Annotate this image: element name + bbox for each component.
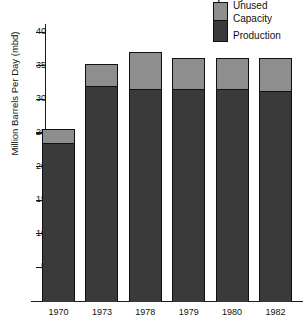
x-axis-label-1978: 1978 xyxy=(123,307,168,318)
x-axis-label-1973: 1973 xyxy=(79,307,124,318)
y-axis-title: Million Barrels Per Day (mbd) xyxy=(9,0,20,194)
bar-1980 xyxy=(216,58,249,301)
bar-1979 xyxy=(172,58,205,301)
bar-segment-unused-capacity xyxy=(173,59,204,91)
bar-1970 xyxy=(42,129,75,301)
bar-segment-production xyxy=(130,90,161,302)
bar-segment-unused-capacity xyxy=(217,59,248,91)
y-tick-label: 30 xyxy=(30,94,46,103)
bar-segment-unused-capacity xyxy=(260,59,291,92)
bar-1973 xyxy=(85,64,118,301)
bar-segment-production xyxy=(173,90,204,302)
bar-segment-production xyxy=(260,92,291,302)
y-tick-label-wrap: 35 xyxy=(14,61,46,62)
bar-segment-production xyxy=(86,87,117,302)
x-axis-label-1979: 1979 xyxy=(166,307,211,318)
bar-segment-unused-capacity xyxy=(130,53,161,91)
y-tick-label: 40 xyxy=(30,27,46,36)
y-tick-label: 35 xyxy=(30,61,46,70)
y-tick-label-wrap: 30 xyxy=(14,94,46,95)
bar-segment-unused-capacity xyxy=(86,65,117,87)
y-tick-label-wrap: 40 xyxy=(14,27,46,28)
x-axis-label-1980: 1980 xyxy=(210,307,255,318)
bar-segment-production xyxy=(43,144,74,302)
bar-segment-production xyxy=(217,90,248,302)
bar-1982 xyxy=(259,58,292,301)
legend-label-unused-capacity: Unused Capacity xyxy=(233,0,272,25)
legend-swatch-production xyxy=(213,2,228,42)
legend-label-unused-line1: Unused xyxy=(233,0,267,11)
legend-label-production: Production xyxy=(233,30,281,43)
x-axis-label-1982: 1982 xyxy=(253,307,298,318)
bar-segment-unused-capacity xyxy=(43,130,74,144)
legend-label-unused-line2: Capacity xyxy=(233,13,272,26)
legend-swatch-unused-capacity xyxy=(214,3,227,21)
x-axis-label-1970: 1970 xyxy=(36,307,81,318)
bar-chart: World Crude Oil Production and Capacity … xyxy=(0,0,305,326)
bar-1978 xyxy=(129,52,162,301)
